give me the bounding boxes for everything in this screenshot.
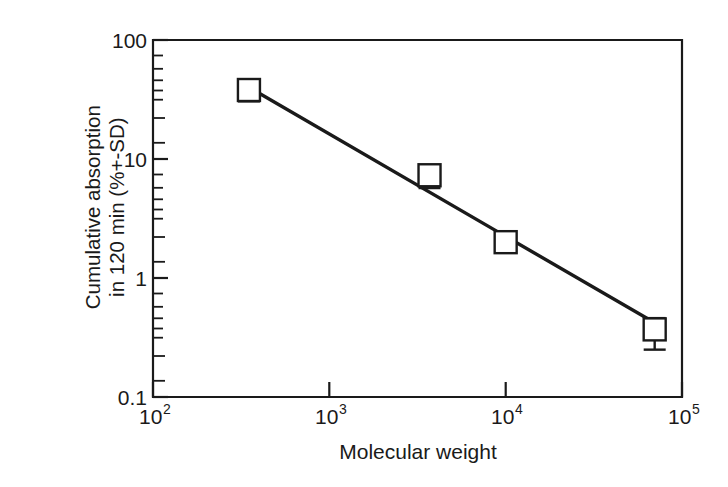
data-point: [495, 231, 517, 253]
x-tick-label-1e4-base: 10: [491, 405, 514, 428]
data-marker-square: [644, 318, 666, 340]
chart-figure: 100 10 1 0.1 10 2 10 3 10 4 10 5 Cumulat…: [0, 0, 728, 487]
x-tick-label-1e5-base: 10: [668, 405, 691, 428]
x-tick-label-1e2-base: 10: [139, 405, 162, 428]
y-axis-minor-ticks: [153, 56, 165, 381]
y-tick-label-100: 100: [112, 29, 147, 52]
y-tick-label-1: 1: [135, 267, 147, 290]
x-tick-label-1e3-exp: 3: [339, 401, 347, 417]
plot-area: 100 10 1 0.1 10 2 10 3 10 4 10 5: [0, 0, 728, 487]
trend-line: [249, 87, 655, 322]
data-marker-square: [419, 164, 441, 186]
axis-frame: [153, 40, 682, 397]
y-tick-labels: 100 10 1 0.1: [112, 29, 147, 409]
x-tick-label-1e3-base: 10: [315, 405, 338, 428]
data-marker-square: [238, 79, 260, 101]
data-point: [419, 164, 441, 188]
x-tick-labels: 10 2 10 3 10 4 10 5: [139, 401, 700, 428]
x-tick-label-1e5-exp: 5: [692, 401, 700, 417]
data-point: [644, 318, 666, 350]
data-marker-square: [495, 231, 517, 253]
x-tick-label-1e4-exp: 4: [515, 401, 523, 417]
x-tick-label-1e2-exp: 2: [163, 401, 171, 417]
data-point: [238, 79, 260, 101]
x-axis-title: Molecular weight: [153, 440, 683, 464]
y-tick-label-10: 10: [124, 148, 147, 171]
x-axis-major-ticks: [153, 382, 682, 397]
